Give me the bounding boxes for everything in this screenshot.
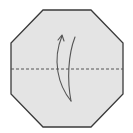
- origami-diagram: [0, 0, 133, 133]
